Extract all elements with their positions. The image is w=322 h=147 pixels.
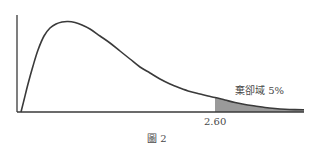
rejection-region-label: 棄卻域 5%	[235, 82, 284, 97]
critical-value-tick-label: 2.60	[204, 116, 226, 127]
density-chart	[0, 0, 322, 147]
figure-caption: 圖 2	[147, 130, 167, 145]
density-curve	[21, 21, 304, 112]
